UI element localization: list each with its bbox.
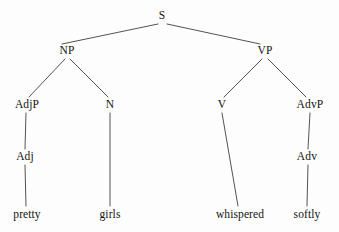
tree-node-adv: Adv	[295, 151, 319, 163]
tree-node-np: NP	[57, 45, 76, 57]
tree-node-advp: AdvP	[295, 99, 326, 111]
tree-edge-np-to-n	[70, 59, 108, 97]
tree-node-adj: Adj	[14, 151, 36, 163]
tree-edge-layer	[0, 0, 339, 232]
tree-node-s: S	[157, 10, 168, 22]
tree-edge-advp-to-adv	[308, 113, 310, 149]
tree-edge-vp-to-advp	[268, 59, 306, 97]
tree-edge-vp-to-v	[224, 59, 262, 97]
tree-edge-s-to-np	[62, 24, 158, 44]
tree-edge-v-to-whispered	[222, 113, 238, 206]
tree-edge-adv-to-softly	[307, 165, 308, 206]
tree-leaf-whispered: whispered	[214, 209, 266, 221]
syntax-tree-diagram: SNPVPAdjPNVAdvPAdjAdv prettygirlswhisper…	[0, 0, 339, 232]
tree-node-n: N	[104, 99, 116, 111]
tree-edge-s-to-vp	[167, 24, 260, 44]
tree-leaf-softly: softly	[292, 209, 323, 221]
tree-leaf-pretty: pretty	[11, 209, 42, 221]
tree-node-adjp: AdjP	[13, 99, 41, 111]
tree-node-vp: VP	[255, 45, 274, 57]
tree-edge-adjp-to-adj	[25, 113, 26, 149]
tree-leaf-girls: girls	[98, 209, 123, 221]
tree-node-v: V	[216, 99, 228, 111]
tree-edge-np-to-adjp	[29, 59, 65, 97]
tree-edge-adj-to-pretty	[25, 165, 26, 206]
